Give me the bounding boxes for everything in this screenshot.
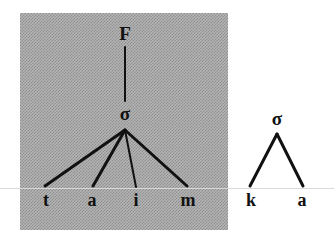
node-label-foot-tree-S1: σ (120, 104, 130, 123)
tree-edge-syllable-tree-S2-R1 (250, 134, 277, 186)
node-label-foot-tree-L3: i (133, 191, 138, 209)
node-label-foot-tree-L4: m (181, 191, 196, 209)
tree-edges-layer (0, 0, 334, 230)
node-label-foot-tree-L2: a (88, 191, 97, 209)
edge-group (45, 47, 303, 187)
tree-edge-foot-tree-S1-L2 (93, 130, 125, 186)
node-label-syllable-tree-R2: a (298, 191, 307, 209)
node-label-foot-tree-L1: t (43, 191, 49, 209)
node-label-foot-tree-F: F (119, 24, 131, 43)
tree-edge-foot-tree-S1-L1 (45, 130, 125, 186)
figure-root: Fσtaimσka (0, 0, 334, 230)
tree-edge-syllable-tree-S2-R2 (277, 134, 303, 186)
node-label-syllable-tree-S2: σ (272, 109, 282, 128)
node-label-syllable-tree-R1: k (246, 191, 256, 209)
